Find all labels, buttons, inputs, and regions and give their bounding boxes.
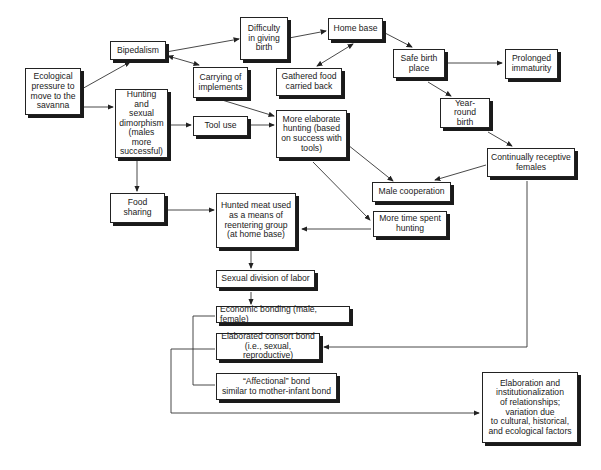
node-home-base: Home base <box>328 18 383 40</box>
node-safe-birth-place: Safe birth place <box>393 49 445 78</box>
node-bipedalism: Bipedalism <box>110 41 166 60</box>
node-ecological-pressure: Ecological pressure to move to the savan… <box>25 68 81 115</box>
node-more-time-hunting: More time spent hunting <box>373 211 447 237</box>
node-elaboration-institutionalization: Elaboration and institutionalization of … <box>482 372 578 443</box>
node-food-sharing: Food sharing <box>110 193 165 223</box>
node-year-round-birth: Year-round birth <box>440 98 490 128</box>
node-tool-use: Tool use <box>193 116 248 136</box>
node-male-cooperation: Male cooperation <box>372 182 451 202</box>
node-prolonged-immaturity: Prolonged immaturity <box>505 49 558 79</box>
node-economic-bonding: Economic bonding (male, female) <box>216 306 350 323</box>
node-carrying-implements: Carrying of implements <box>193 67 248 98</box>
node-affectional-bond: “Affectional” bond similar to mother-inf… <box>216 373 337 400</box>
node-receptive-females: Continually receptive females <box>487 148 575 177</box>
node-difficulty-giving-birth: Difficulty in giving birth <box>240 17 288 60</box>
node-elaborate-hunting: More elaborate hunting (based on success… <box>276 110 347 158</box>
node-hunting-dimorphism: Hunting and sexual dimorphism (males mor… <box>115 89 168 158</box>
node-sexual-division-labor: Sexual division of labor <box>216 270 315 288</box>
node-gathered-food: Gathered food carried back <box>276 68 342 96</box>
node-hunted-meat: Hunted meat used as a means of reenterin… <box>216 193 296 248</box>
node-consort-bond: Elaborated consort bond (i.e., sexual, r… <box>216 333 320 360</box>
